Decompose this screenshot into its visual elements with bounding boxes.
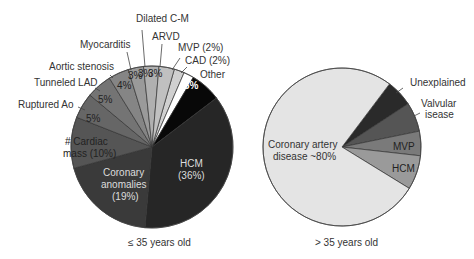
label-mvp-2: MVP (2%) [178,42,223,53]
label-coronary-anomalies-2: anomalies [101,179,147,190]
label-valvular-2: isease [425,109,454,120]
label-ruptured-ao: Ruptured Ao [18,99,74,110]
label-myocarditis: Myocarditis [80,39,131,50]
label-cad-right-2: disease ~80% [273,151,336,162]
label-unexplained: Unexplained [410,77,466,88]
label-hcm-right: HCM [392,163,415,174]
chart-canvas: Dilated C-M ARVD Myocarditis MVP (2%) CA… [0,0,474,259]
leader-line-dilated [142,30,145,67]
label-pct-ruptured: 5% [86,113,101,124]
label-pct-arvd: 3% [148,68,163,79]
caption-under-35: ≤ 35 years old [128,237,191,248]
label-hcm-left-2: (36%) [178,170,205,181]
label-coronary-anomalies-3: (19%) [112,191,139,202]
label-valvular-1: Valvular [421,98,457,109]
leader-line-arvd [160,44,162,67]
label-cardiac-mass-1: # Cardiac [65,136,108,147]
leader-line-valvular [414,113,420,116]
label-pct-other: 6% [184,80,199,91]
pie-chart-under-35 [71,66,233,228]
label-cad-right-1: Coronary artery [268,139,337,150]
leader-line-cad [181,67,187,73]
label-mvp-right: MVP [393,141,415,152]
label-hcm-left-1: HCM [180,158,203,169]
label-cad-2: CAD (2%) [185,55,230,66]
label-aortic-stenosis: Aortic stenosis [49,61,114,72]
label-pct-aortic: 4% [117,80,132,91]
leader-line-myocarditis [127,52,131,70]
label-tunneled-lad: Tunneled LAD [34,77,98,88]
label-coronary-anomalies-1: Coronary [103,167,144,178]
label-other: Other [200,69,226,80]
label-dilated-cm: Dilated C-M [136,13,189,24]
label-arvd: ARVD [152,31,180,42]
leader-line-mvp [172,58,180,70]
label-pct-tunneled: 5% [98,94,113,105]
label-cardiac-mass-2: mass (10%) [63,148,116,159]
caption-over-35: > 35 years old [315,237,378,248]
